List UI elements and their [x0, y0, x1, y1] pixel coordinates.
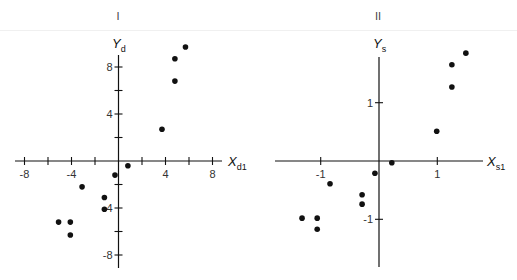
x-tick-label: 4: [162, 168, 168, 180]
data-point: [112, 172, 118, 178]
y-tick-label: -8: [103, 249, 113, 261]
data-point: [172, 78, 178, 84]
data-point: [102, 195, 108, 201]
data-point: [79, 184, 85, 190]
data-point: [372, 170, 378, 176]
data-point: [68, 232, 74, 238]
data-point: [183, 44, 189, 50]
data-point: [172, 56, 178, 62]
y-tick-label: 1: [367, 97, 373, 109]
data-point: [102, 206, 108, 212]
data-point: [125, 163, 131, 169]
data-point: [314, 215, 320, 221]
y-tick-label: -1: [363, 213, 373, 225]
data-point: [159, 126, 165, 132]
y-axis-label: Ys: [373, 36, 387, 54]
data-point: [299, 215, 305, 221]
x-tick-label: 1: [434, 168, 440, 180]
x-axis-label: Xs1: [486, 154, 505, 172]
data-point: [359, 192, 365, 198]
data-point: [434, 128, 440, 134]
scatter-panel-1: -8-448-8-448Xd1Yd: [15, 36, 247, 268]
y-tick-label: 8: [106, 61, 112, 73]
data-point: [314, 226, 320, 232]
data-point: [463, 50, 469, 56]
y-tick-label: 4: [106, 108, 112, 120]
data-point: [327, 181, 333, 187]
data-point: [68, 219, 74, 225]
scatter-figure: -8-448-8-448Xd1Yd -11-11Xs1Ys: [0, 0, 517, 280]
y-axis-label: Yd: [112, 36, 126, 54]
scatter-panel-2: -11-11Xs1Ys: [275, 36, 505, 267]
x-tick-label: -4: [67, 168, 77, 180]
x-axis-label: Xd1: [227, 154, 247, 172]
data-point: [359, 201, 365, 207]
x-tick-label: 8: [209, 168, 215, 180]
x-tick-label: -1: [316, 168, 326, 180]
data-point: [449, 62, 455, 68]
data-point: [449, 84, 455, 90]
data-point: [389, 160, 395, 166]
x-tick-label: -8: [20, 168, 30, 180]
data-point: [56, 219, 62, 225]
